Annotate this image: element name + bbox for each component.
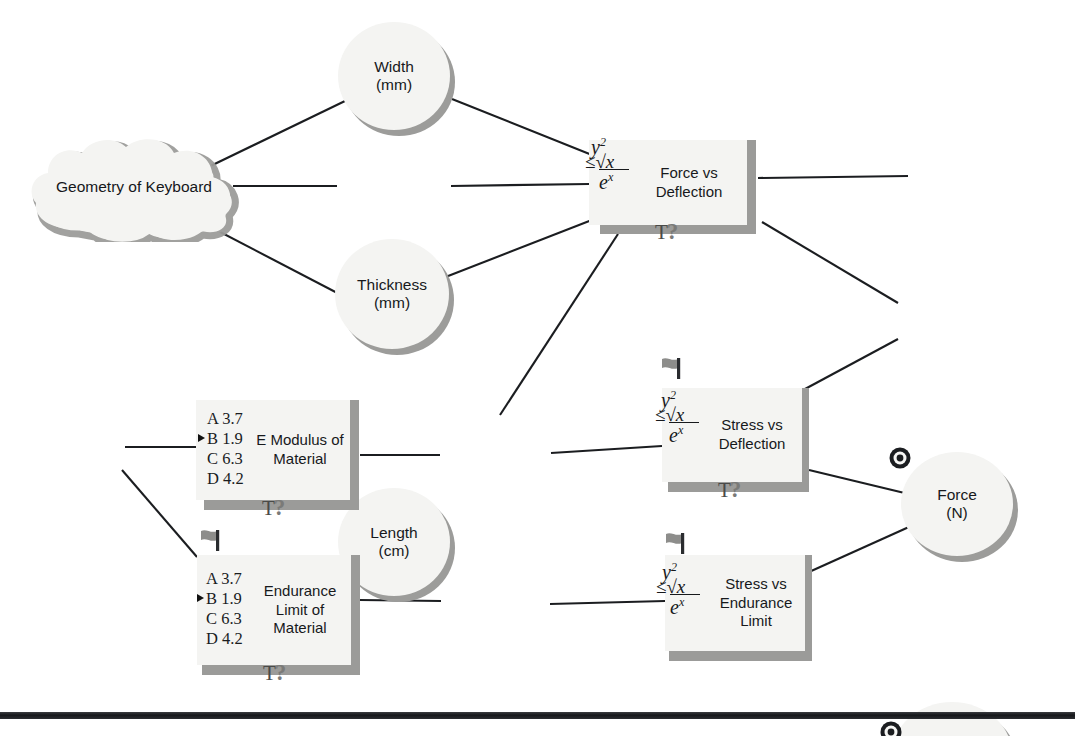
edge-forcedefl-deflection [762,222,898,303]
edge-stressendur-stress [809,522,920,572]
tq-badge: T? [262,496,284,519]
tq-mark: ? [275,660,286,685]
tq-letter: T [655,220,667,244]
node-width-labels: Width (mm) [370,58,418,95]
node-label-line1: Force vs [656,164,723,183]
node-thickness[interactable]: Thickness (mm) [335,239,449,349]
formula-den-exp: x [678,423,683,437]
diagram-canvas: Geometry of Keyboard Width (mm) Thicknes… [0,0,1075,736]
list-row-value: 3.7 [222,409,243,428]
node-stress-vs-endurance-limit-labels: Stress vs Endurance Limit [720,575,793,631]
edge-forcedefl-emodulus [500,234,618,415]
target-icon [879,720,903,736]
node-stress-vs-endurance-limit[interactable]: Stress vs Endurance Limit y2 ≤√x ex [665,555,815,665]
node-force-label: Force [937,486,977,504]
formula-relation-radical: ≤√x [656,577,708,596]
tq-letter: T [263,661,275,685]
node-label-line2: Limit of [264,601,337,620]
node-label-line2: Deflection [656,183,723,202]
list-row[interactable]: A 3.7 [197,569,243,589]
node-thickness-unit: (mm) [357,294,427,312]
flag-icon [657,357,683,381]
node-geometry-label: Geometry of Keyboard [56,178,212,196]
node-label-line2: Deflection [719,435,786,454]
formula-radical: √x [595,151,614,172]
edge-endurmat-endurance [360,600,441,601]
tq-badge: T? [655,220,677,243]
formula-relation-radical: ≤√x [585,152,637,171]
node-geometry-of-keyboard[interactable]: Geometry of Keyboard [26,132,242,242]
list-badge: A 3.7 B 1.9 C 6.3 D 4.2 [197,569,243,650]
tq-mark: ? [274,495,285,520]
formula-relation: ≤ [655,404,665,425]
list-row-key: D [206,629,218,648]
node-length-label: Length [370,524,417,542]
list-row-value: 4.2 [223,469,244,488]
edge-thickness-forcedefl [451,184,589,186]
list-row[interactable]: C 6.3 [198,449,244,469]
formula-badge: y2 ≤√x ex [655,389,707,444]
bottom-rule [0,712,1075,719]
tq-letter: T [262,496,274,520]
node-stress-vs-deflection[interactable]: Stress vs Deflection y2 ≤√x ex T? [662,388,812,496]
formula-badge: y2 ≤√x ex [585,136,637,191]
node-e-modulus-of-material-labels: E Modulus of Material [256,431,344,469]
flag-icon [661,532,687,556]
formula-num-exp: 2 [670,388,676,402]
formula-den-exp: x [608,170,613,184]
node-force-vs-deflection-labels: Force vs Deflection [656,164,723,202]
formula-num-exp: 2 [671,560,677,574]
tq-mark: ? [667,219,678,244]
node-label-line2: Endurance [720,594,793,613]
list-row-selected[interactable]: B 1.9 [197,589,243,609]
node-label-line3: Material [264,619,337,638]
node-endurance-limit-of-material[interactable]: Endurance Limit of Material A 3.7 B 1.9 … [197,555,367,680]
formula-denominator: ex [670,596,708,617]
edge-width-forcedefl [452,99,592,155]
node-e-modulus-of-material[interactable]: E Modulus of Material A 3.7 B 1.9 C 6.3 … [196,400,366,514]
list-row[interactable]: C 6.3 [197,609,243,629]
list-row-key: C [206,609,217,628]
target-icon [888,446,912,470]
formula-relation: ≤ [656,576,666,597]
list-row-value: 6.3 [221,609,242,628]
list-row[interactable]: A 3.7 [198,409,244,429]
node-width[interactable]: Width (mm) [338,22,450,130]
list-row-value: 1.9 [221,589,242,608]
node-label-line3: Limit [720,612,793,631]
tq-badge: T? [263,661,285,684]
list-row-key: A [206,569,217,588]
list-row-key: B [206,589,217,608]
node-label-line1: Stress vs [719,416,786,435]
list-row[interactable]: D 4.2 [198,469,244,489]
edge-deflection-stressdefl [805,339,898,389]
formula-relation-radical: ≤√x [655,405,707,424]
formula-radical: √x [666,576,685,597]
tq-badge: T? [718,478,740,501]
node-force-vs-deflection[interactable]: Force vs Deflection y2 ≤√x ex T? [589,140,761,236]
node-force[interactable]: Force (N) [901,452,1013,556]
list-row[interactable]: D 4.2 [197,629,243,649]
node-label-line2: Material [256,450,344,469]
node-endurance-limit-of-material-labels: Endurance Limit of Material [264,582,337,638]
list-badge: A 3.7 B 1.9 C 6.3 D 4.2 [198,409,244,490]
list-row-key: B [207,429,218,448]
formula-den-exp: x [679,595,684,609]
flag-icon [196,529,222,553]
edge-layer [0,0,1075,736]
tq-letter: T [718,478,730,502]
list-row-selected[interactable]: B 1.9 [198,429,244,449]
edge-material-endurmat [122,470,197,557]
edge-emodulus-stressdefl [551,446,662,453]
node-length-unit: (cm) [370,542,417,560]
box-edge-bottom [669,650,812,661]
formula-num-exp: 2 [600,135,606,149]
list-row-value: 1.9 [222,429,243,448]
node-stress-vs-deflection-labels: Stress vs Deflection [719,416,786,454]
node-thickness-labels: Thickness (mm) [353,276,431,313]
list-row-key: C [207,449,218,468]
list-row-value: 6.3 [222,449,243,468]
list-row-value: 4.2 [222,629,243,648]
edge-endurance-stressendur [550,601,665,604]
node-label-line1: Endurance [264,582,337,601]
